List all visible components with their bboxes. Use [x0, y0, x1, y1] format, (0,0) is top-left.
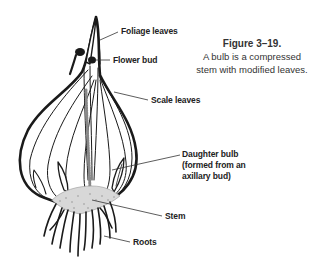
label-roots: Roots: [133, 237, 157, 248]
daughter-bulb-line1: Daughter bulb: [182, 149, 246, 160]
daughter-bulb-line3: axillary bud): [182, 171, 246, 182]
figure-number: Figure 3–19.: [186, 38, 318, 50]
caption-line-1: A bulb is a compressed: [186, 50, 318, 63]
leader-roots: [104, 236, 130, 242]
label-scale-leaves: Scale leaves: [151, 95, 200, 106]
label-foliage-leaves: Foliage leaves: [121, 26, 178, 37]
label-daughter-bulb: Daughter bulb (formed from an axillary b…: [182, 149, 246, 182]
daughter-bulb-right: [112, 158, 124, 192]
label-flower-bud: Flower bud: [113, 55, 157, 66]
label-stem: Stem: [165, 211, 185, 222]
caption-line-2: stem with modified leaves.: [186, 63, 318, 76]
leader-stem: [92, 200, 162, 216]
daughter-bulb-line2: (formed from an: [182, 160, 246, 171]
figure-caption: Figure 3–19. A bulb is a compressed stem…: [186, 38, 318, 76]
leader-scale-leaves: [114, 92, 148, 100]
leader-foliage-leaves: [100, 32, 118, 40]
